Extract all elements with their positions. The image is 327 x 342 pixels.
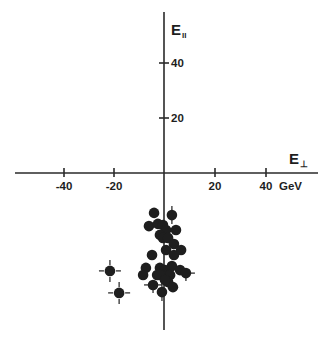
scatter-plot: -40 -20 20 40 GeV 40 20 E II E ⊥ [0, 0, 327, 342]
x-axis-title: E [289, 150, 299, 167]
x-axis-title-subscript: ⊥ [300, 159, 308, 169]
y-axis-title-subscript: II [182, 31, 186, 40]
y-tick-label-20: 20 [171, 112, 184, 124]
x-tick-label-40: 40 [260, 180, 273, 192]
data-point [160, 275, 171, 286]
x-tick-label-neg40: -40 [56, 180, 73, 192]
data-point [176, 245, 187, 256]
axis-titles: E II E ⊥ [171, 21, 308, 169]
data-point [99, 260, 121, 282]
data-point [147, 250, 158, 261]
data-point [167, 206, 178, 224]
data-point [171, 225, 182, 236]
y-tick-label-40: 40 [171, 57, 184, 69]
data-point [168, 282, 179, 293]
data-point [149, 208, 160, 219]
data-point [108, 282, 130, 304]
data-points [99, 206, 195, 304]
data-point [138, 270, 149, 281]
x-tick-label-neg20: -20 [106, 180, 123, 192]
x-unit-label: GeV [279, 180, 302, 192]
y-axis-title: E [171, 21, 181, 38]
x-tick-label-20: 20 [209, 180, 222, 192]
data-point [144, 221, 155, 232]
